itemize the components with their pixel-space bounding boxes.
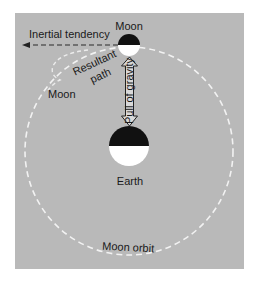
earth-label: Earth	[117, 175, 143, 187]
inertial-tendency-label: Inertial tendency	[29, 28, 110, 40]
moon-top-label: Moon	[115, 20, 143, 32]
moon-body-top	[118, 34, 140, 56]
moon-orbit-diagram: Pull of gravity Moon Inertial tendency R…	[0, 0, 258, 282]
moon-left-label: Moon	[48, 88, 76, 100]
earth-body	[109, 126, 149, 166]
pull-of-gravity-label: Pull of gravity	[123, 57, 135, 124]
